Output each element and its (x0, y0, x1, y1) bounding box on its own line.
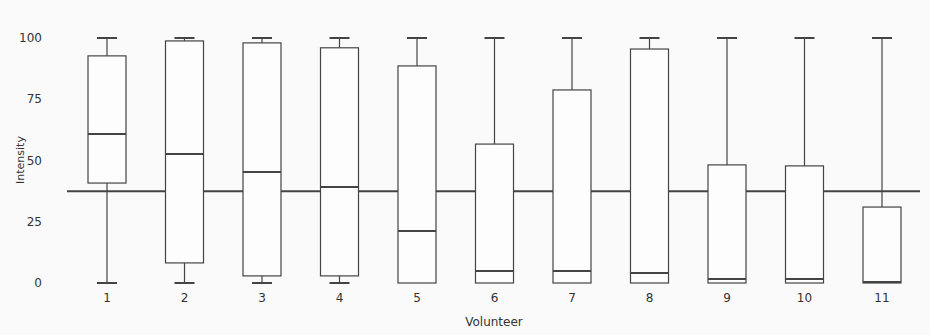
x-axis-ticks: 1234567891011 (103, 291, 889, 305)
y-tick-label: 100 (19, 31, 42, 45)
y-tick-label: 75 (27, 92, 42, 106)
x-axis-label: Volunteer (465, 315, 523, 329)
box-volunteer-1 (88, 38, 126, 283)
box-volunteer-3 (243, 38, 281, 283)
y-axis-label: Intensity (14, 136, 27, 184)
box-volunteer-5 (398, 38, 436, 283)
box-volunteer-4 (321, 38, 359, 283)
y-tick-label: 25 (27, 215, 42, 229)
iqr-box (243, 43, 281, 276)
box-volunteer-6 (476, 38, 514, 283)
box-volunteer-7 (553, 38, 591, 283)
iqr-box (708, 165, 746, 283)
iqr-box (553, 90, 591, 283)
x-tick-label: 1 (103, 291, 111, 305)
box-volunteer-2 (166, 38, 204, 283)
iqr-box (321, 48, 359, 276)
x-tick-label: 11 (874, 291, 889, 305)
iqr-box (88, 56, 126, 183)
x-tick-label: 6 (491, 291, 499, 305)
y-tick-label: 50 (27, 154, 42, 168)
box-volunteer-11 (863, 38, 901, 283)
box-plot-chart: 0255075100 1234567891011 Intensity Volun… (0, 0, 930, 335)
box-volunteer-9 (708, 38, 746, 283)
iqr-box (398, 66, 436, 283)
x-tick-label: 7 (568, 291, 576, 305)
iqr-box (786, 166, 824, 283)
x-tick-label: 2 (181, 291, 189, 305)
x-tick-label: 3 (258, 291, 266, 305)
iqr-box (631, 49, 669, 283)
x-tick-label: 9 (723, 291, 731, 305)
iqr-box (166, 41, 204, 263)
x-tick-label: 10 (797, 291, 812, 305)
plot-area (67, 38, 920, 283)
x-tick-label: 8 (646, 291, 654, 305)
iqr-box (476, 144, 514, 283)
x-tick-label: 5 (413, 291, 421, 305)
box-volunteer-10 (786, 38, 824, 283)
iqr-box (863, 207, 901, 283)
box-volunteer-8 (631, 38, 669, 283)
y-tick-label: 0 (34, 276, 42, 290)
x-tick-label: 4 (336, 291, 344, 305)
